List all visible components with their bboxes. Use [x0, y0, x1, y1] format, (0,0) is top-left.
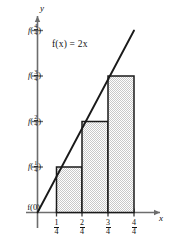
riemann-bar-2 [57, 167, 83, 213]
y-axis-label-4-4: f(44) [28, 24, 41, 38]
riemann-bar-3 [82, 122, 108, 213]
x-axis-name: x [159, 214, 163, 223]
y-axis-label-3-4: f(34) [28, 69, 41, 83]
y-axis-label-1-4: f(14) [28, 160, 41, 174]
riemann-bar-4 [108, 76, 134, 213]
riemann-rectangles [57, 76, 135, 213]
y-axis-arrowhead [35, 16, 40, 22]
function-equation-label: f(x) = 2x [52, 40, 88, 50]
x-axis-label-2-4: 24 [79, 219, 85, 238]
x-axis-label-4-4: 44 [131, 219, 137, 238]
x-axis-label-3-4: 34 [105, 219, 111, 238]
y-axis-label-origin: f(0) [27, 203, 40, 212]
y-axis-name: y [40, 4, 44, 13]
x-axis-label-1-4: 14 [54, 219, 60, 238]
riemann-sum-figure: f(44) f(34) f(24) f(14) f(0) 14 24 34 44… [0, 0, 171, 251]
y-axis-label-2-4: f(24) [28, 115, 41, 129]
plot-canvas [0, 0, 171, 251]
